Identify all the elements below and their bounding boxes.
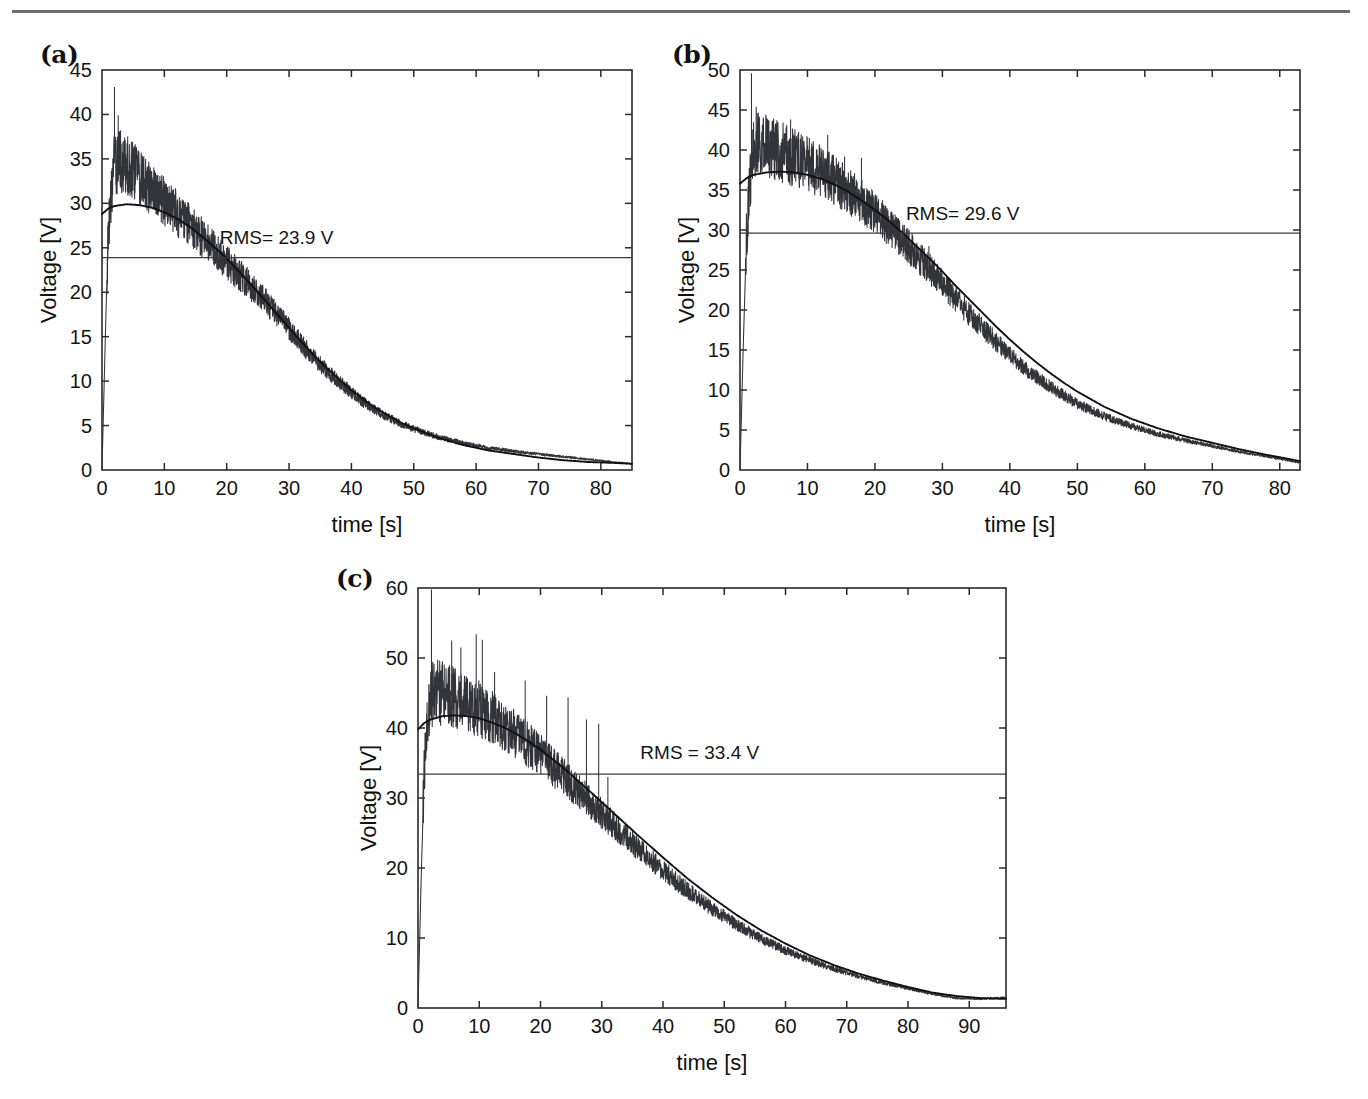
y-axis-title: Voltage [V] bbox=[36, 217, 61, 323]
x-tick-label: 40 bbox=[340, 477, 362, 499]
y-tick-label: 10 bbox=[708, 379, 730, 401]
plot-frame bbox=[740, 70, 1300, 470]
y-tick-label: 5 bbox=[719, 419, 730, 441]
x-axis-title: time [s] bbox=[677, 1050, 748, 1075]
x-tick-label: 40 bbox=[999, 477, 1021, 499]
y-tick-label: 20 bbox=[386, 857, 408, 879]
plot-frame bbox=[418, 588, 1006, 1008]
x-tick-label: 60 bbox=[1134, 477, 1156, 499]
x-tick-label: 0 bbox=[734, 477, 745, 499]
y-axis-title: Voltage [V] bbox=[356, 745, 381, 851]
x-tick-label: 60 bbox=[465, 477, 487, 499]
y-tick-label: 15 bbox=[708, 339, 730, 361]
page-separator-rule bbox=[12, 10, 1350, 13]
y-tick-label: 35 bbox=[70, 148, 92, 170]
x-tick-label: 0 bbox=[412, 1015, 423, 1037]
y-tick-label: 10 bbox=[70, 370, 92, 392]
y-tick-label: 5 bbox=[81, 415, 92, 437]
y-tick-label: 10 bbox=[386, 927, 408, 949]
x-tick-label: 20 bbox=[529, 1015, 551, 1037]
x-tick-label: 60 bbox=[774, 1015, 796, 1037]
chart-panel-a: (a) 01020304050607080051015202530354045t… bbox=[30, 38, 670, 538]
x-tick-label: 0 bbox=[96, 477, 107, 499]
x-tick-label: 50 bbox=[713, 1015, 735, 1037]
x-tick-label: 90 bbox=[958, 1015, 980, 1037]
x-axis-title: time [s] bbox=[985, 512, 1056, 537]
x-tick-label: 80 bbox=[590, 477, 612, 499]
y-tick-label: 15 bbox=[70, 326, 92, 348]
y-tick-label: 40 bbox=[386, 717, 408, 739]
figure-root: (a) 01020304050607080051015202530354045t… bbox=[0, 0, 1368, 1099]
y-tick-label: 50 bbox=[386, 647, 408, 669]
y-tick-label: 35 bbox=[708, 179, 730, 201]
chart-panel-c: (c) 01020304050607080900102030405060time… bbox=[330, 558, 1030, 1078]
plot-a: 01020304050607080051015202530354045time … bbox=[30, 38, 670, 538]
y-tick-label: 30 bbox=[386, 787, 408, 809]
y-tick-label: 0 bbox=[719, 459, 730, 481]
y-tick-label: 40 bbox=[70, 103, 92, 125]
y-tick-label: 40 bbox=[708, 139, 730, 161]
y-tick-label: 30 bbox=[70, 192, 92, 214]
fitted-curve-trace bbox=[102, 204, 632, 464]
x-tick-label: 70 bbox=[1201, 477, 1223, 499]
x-axis-title: time [s] bbox=[332, 512, 403, 537]
y-axis-title: Voltage [V] bbox=[674, 217, 699, 323]
x-tick-label: 70 bbox=[527, 477, 549, 499]
measured-voltage-trace bbox=[418, 660, 1006, 1008]
x-tick-label: 50 bbox=[403, 477, 425, 499]
y-tick-label: 25 bbox=[70, 237, 92, 259]
x-tick-label: 50 bbox=[1066, 477, 1088, 499]
x-tick-label: 80 bbox=[897, 1015, 919, 1037]
rms-annotation-label: RMS= 23.9 V bbox=[220, 227, 334, 248]
fitted-curve-trace bbox=[740, 172, 1300, 462]
plot-frame bbox=[102, 70, 632, 470]
y-tick-label: 25 bbox=[708, 259, 730, 281]
measured-voltage-trace bbox=[740, 113, 1300, 470]
plot-b: 0102030405060708005101520253035404550tim… bbox=[664, 38, 1324, 538]
rms-annotation-label: RMS = 33.4 V bbox=[640, 742, 759, 763]
rms-annotation-label: RMS= 29.6 V bbox=[906, 203, 1020, 224]
x-tick-label: 10 bbox=[796, 477, 818, 499]
x-tick-label: 80 bbox=[1269, 477, 1291, 499]
x-tick-label: 30 bbox=[931, 477, 953, 499]
y-tick-label: 20 bbox=[70, 281, 92, 303]
y-tick-label: 60 bbox=[386, 577, 408, 599]
x-tick-label: 20 bbox=[864, 477, 886, 499]
x-tick-label: 10 bbox=[153, 477, 175, 499]
y-tick-label: 0 bbox=[397, 997, 408, 1019]
y-tick-label: 45 bbox=[708, 99, 730, 121]
x-tick-label: 70 bbox=[836, 1015, 858, 1037]
x-tick-label: 20 bbox=[216, 477, 238, 499]
x-tick-label: 40 bbox=[652, 1015, 674, 1037]
measured-voltage-trace bbox=[102, 131, 632, 470]
panel-label-c: (c) bbox=[336, 564, 373, 593]
x-tick-label: 30 bbox=[278, 477, 300, 499]
x-tick-label: 10 bbox=[468, 1015, 490, 1037]
y-tick-label: 20 bbox=[708, 299, 730, 321]
plot-c: 01020304050607080900102030405060time [s]… bbox=[330, 558, 1030, 1078]
chart-panel-b: (b) 010203040506070800510152025303540455… bbox=[664, 38, 1324, 538]
y-tick-label: 30 bbox=[708, 219, 730, 241]
panel-label-b: (b) bbox=[672, 40, 712, 69]
y-tick-label: 0 bbox=[81, 459, 92, 481]
panel-label-a: (a) bbox=[40, 40, 78, 69]
x-tick-label: 30 bbox=[591, 1015, 613, 1037]
